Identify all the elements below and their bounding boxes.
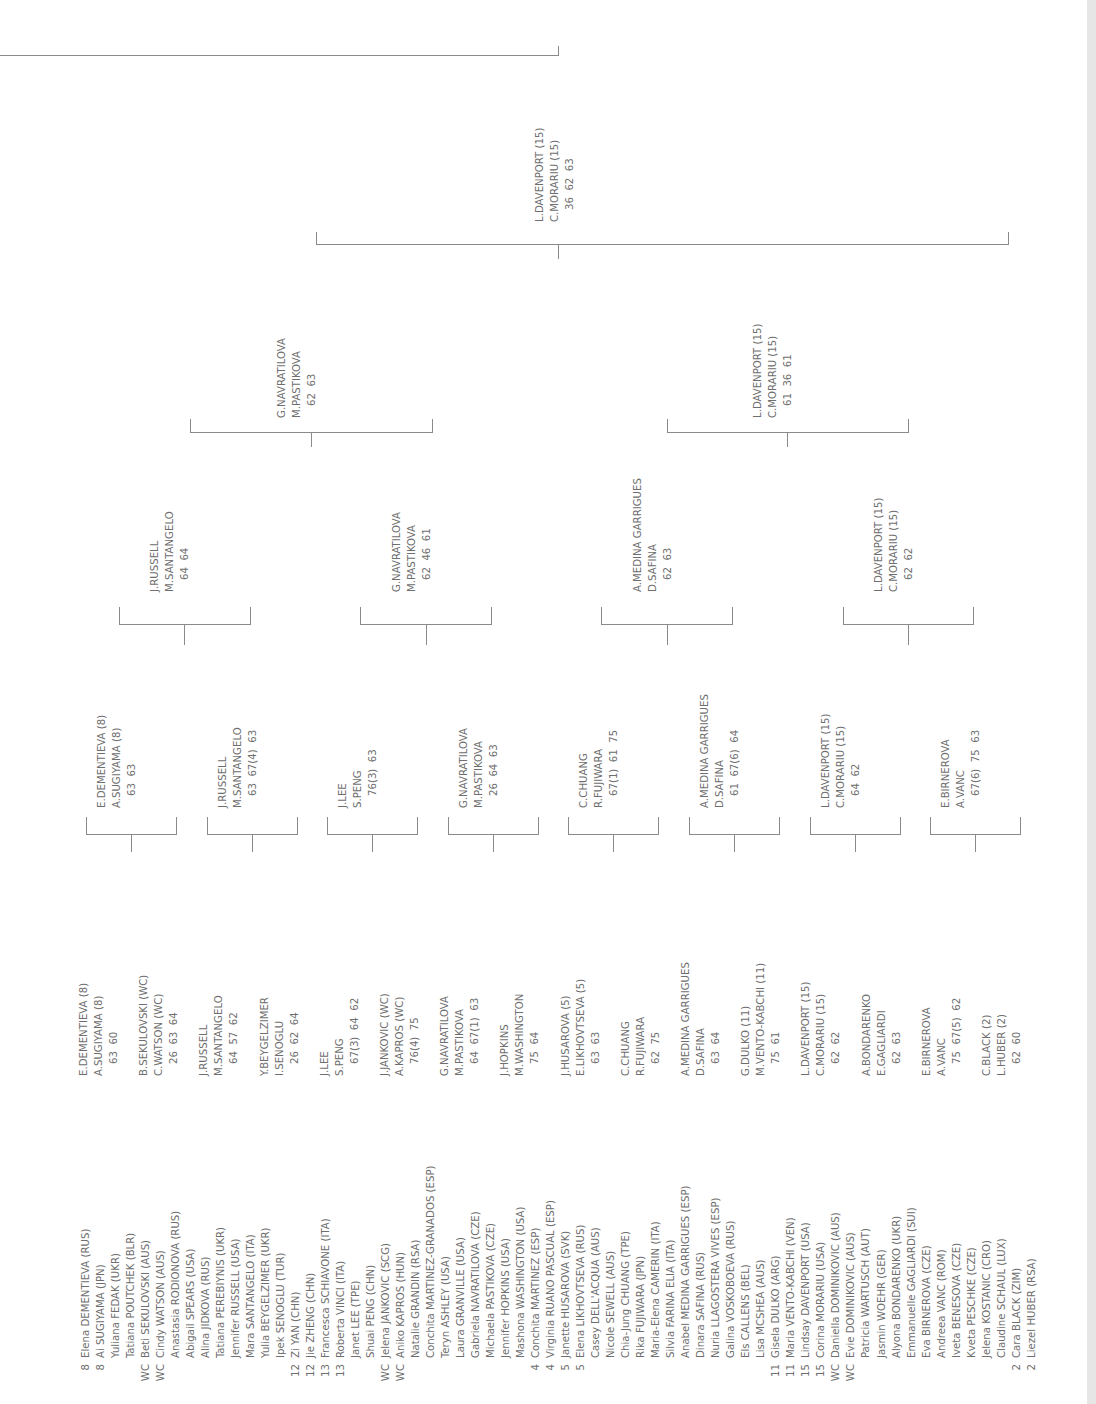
team-player-2: M.PASTIKOVA [452, 996, 467, 1076]
bracket-line [426, 625, 427, 645]
draw-entry: 15Lindsay DAVENPORT (USA) [798, 1222, 813, 1390]
score: 63 63 [588, 979, 603, 1076]
player-name: Jelena JANKOVIC (SCG) [379, 1243, 392, 1358]
player-name: Silvia FARINA ELIA (ITA) [664, 1240, 677, 1358]
bracket-line [432, 419, 433, 433]
seed-label: 11 [768, 1364, 783, 1390]
team-player-2: D.SAFINA [712, 694, 727, 808]
team-player-2: L.HUBER (2) [994, 1014, 1009, 1076]
match-result: Y.BEYGELZIMERI.SENOGLU26 62 64 [257, 997, 302, 1076]
match-result: J.HUSAROVA (5)E.LIKHOVTSEVA (5)63 63 [558, 979, 603, 1076]
draw-entry: Teryn ASHLEY (USA) [438, 1256, 453, 1390]
bracket-line [908, 419, 909, 433]
match-result: E.BIRNEROVAA.VANC67(6) 75 63 [938, 730, 983, 808]
player-name: Kveta PESCHKE (CZE) [965, 1247, 978, 1358]
draw-entry: WCCindy WATSON (AUS) [153, 1250, 168, 1390]
match-result: L.DAVENPORT (15)C.MORARIU (15)62 62 [871, 498, 916, 592]
bracket-line [131, 835, 132, 852]
team-player-2: C.MORARIU (15) [886, 498, 901, 592]
match-result: J.RUSSELLM.SANTANGELO63 67(4) 63 [215, 727, 260, 808]
draw-entry: 5Janette HUSAROVA (SVK) [558, 1231, 573, 1390]
bracket-line [787, 433, 788, 447]
draw-entry: 8Ai SUGIYAMA (JPN) [93, 1264, 108, 1390]
draw-entry: WCAniko KAPROS (HUN) [393, 1252, 408, 1390]
match-result: A.MEDINA GARRIGUESD.SAFINA62 63 [630, 478, 675, 592]
team-player-1: Y.BEYGELZIMER [257, 997, 272, 1076]
seed-label: 12 [288, 1364, 303, 1390]
seed-label: 11 [783, 1364, 798, 1390]
player-name: Maria-Elena CAMERIN (ITA) [649, 1221, 662, 1358]
draw-entry: 11Maria VENTO-KABCHI (VEN) [783, 1217, 798, 1390]
player-name: Lisa MCSHEA (AUS) [754, 1259, 767, 1358]
match-result: E.BIRNEROVAA.VANC75 67(5) 62 [919, 998, 964, 1076]
player-name: Dinara SAFINA (RUS) [694, 1252, 707, 1358]
seed-label: WC [393, 1364, 408, 1390]
player-name: Teryn ASHLEY (USA) [439, 1256, 452, 1358]
bracket-line [667, 419, 668, 433]
match-result: B.SEKULOVSKI (WC)C.WATSON (WC)26 63 64 [136, 975, 181, 1076]
match-result: L.DAVENPORT (15)C.MORARIU (15)36 62 63 [532, 128, 577, 222]
team-player-2: M.PASTIKOVA [471, 728, 486, 808]
bracket-line [558, 245, 559, 259]
bracket-line [900, 817, 901, 835]
bracket-line [558, 46, 559, 56]
draw-entry: Casey DELL'ACQUA (AUS) [588, 1227, 603, 1390]
draw-entry: Jennifer RUSSELL (USA) [228, 1238, 243, 1390]
draw-entry: Shuai PENG (CHN) [363, 1265, 378, 1390]
bracket-line [448, 817, 449, 835]
score: 26 63 64 [166, 975, 181, 1076]
score: 64 67(1) 63 [467, 996, 482, 1076]
seed-label: 2 [1024, 1364, 1039, 1390]
team-player-1: L.DAVENPORT (15) [750, 324, 765, 418]
team-player-2: M.VENTO-KABCHI (11) [753, 963, 768, 1076]
seed-label: 4 [528, 1364, 543, 1390]
draw-entry: Laura GRANVILLE (USA) [453, 1237, 468, 1390]
team-player-1: C.CHUANG [576, 730, 591, 808]
team-player-2: M.WASHINGTON [512, 994, 527, 1076]
score: 63 63 [124, 715, 139, 808]
match-result: L.DAVENPORT (15)C.MORARIU (15)61 36 61 [750, 324, 795, 418]
player-name: Lindsay DAVENPORT (USA) [799, 1222, 812, 1358]
draw-entry: Jelena KOSTANIC (CRO) [979, 1240, 994, 1390]
draw-entry: WCDaniella DOMINIKOVIC (AUS) [828, 1212, 843, 1390]
bracket-line [779, 817, 780, 835]
bracket-line [297, 817, 298, 835]
seed-label: 13 [318, 1364, 333, 1390]
bracket-line [732, 607, 733, 625]
score: 62 63 [889, 994, 904, 1076]
bracket-line [86, 817, 87, 835]
draw-entry: Ipek SENOGLU (TUR) [273, 1252, 288, 1390]
match-result: J.LEES.PENG67(3) 64 62 [317, 998, 362, 1076]
score: 62 46 61 [419, 512, 434, 592]
draw-entry: Jennifer HOPKINS (USA) [498, 1238, 513, 1390]
bracket-line [810, 817, 811, 835]
match-result: C.CHUANGR.FUJIWARA67(1) 61 75 [576, 730, 621, 808]
seed-label: 8 [93, 1364, 108, 1390]
player-name: Conchita MARTINEZ (ESP) [529, 1228, 542, 1358]
player-name: Chia-Jung CHUANG (TPE) [619, 1231, 632, 1358]
team-player-1: J.RUSSELL [196, 995, 211, 1076]
draw-entry: Claudine SCHAUL (LUX) [994, 1238, 1009, 1390]
draw-entry: 2Liezel HUBER (RSA) [1024, 1258, 1039, 1390]
score: 63 64 [708, 962, 723, 1076]
team-player-1: J.HUSAROVA (5) [558, 979, 573, 1076]
score: 61 36 61 [780, 324, 795, 418]
draw-entry: 12Jie ZHENG (CHN) [303, 1273, 318, 1390]
score: 76(3) 63 [365, 749, 380, 808]
score: 67(3) 64 62 [347, 998, 362, 1076]
player-name: Yuliana FEDAK (UKR) [109, 1253, 122, 1358]
bracket-line [207, 817, 208, 835]
draw-entry: Yuliana FEDAK (UKR) [108, 1253, 123, 1390]
draw-entry: Maria-Elena CAMERIN (ITA) [648, 1221, 663, 1390]
draw-entry: Michaela PASTIKOVA (CZE) [483, 1223, 498, 1390]
match-result: C.BLACK (2)L.HUBER (2)62 60 [979, 1014, 1024, 1076]
player-name: Emmanuelle GAGLIARDI (SUI) [905, 1207, 918, 1358]
team-player-1: C.BLACK (2) [979, 1014, 994, 1076]
page-edge-shadow [1087, 0, 1096, 1404]
draw-entry: Rika FUJIWARA (JPN) [633, 1256, 648, 1390]
draw-entry: Nuria LLAGOSTERA VIVES (ESP) [708, 1198, 723, 1391]
player-name: Maria VENTO-KABCHI (VEN) [784, 1217, 797, 1358]
draw-entry: WCBeti SEKULOVSKI (AUS) [138, 1240, 153, 1390]
seed-label: 15 [798, 1364, 813, 1390]
player-name: Jasmin WOEHR (GER) [875, 1249, 888, 1358]
